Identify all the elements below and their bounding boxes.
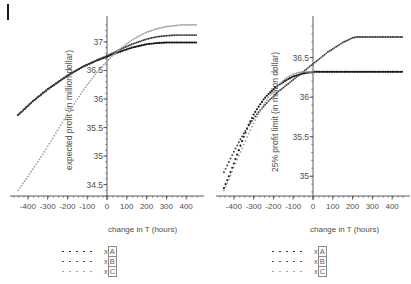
legend-label-c: xC [100, 267, 117, 276]
legend-swatch-light [62, 267, 100, 276]
svg-text:-200: -200 [265, 202, 282, 211]
svg-text:expected profit (in million do: expected profit (in million dollar) [64, 50, 74, 170]
legend-right: xA xB xC [272, 246, 392, 280]
legend-swatch-dark [62, 247, 100, 256]
legend-item[interactable]: xB [62, 256, 182, 266]
svg-text:25% profit limit (in million d: 25% profit limit (in million dollar) [270, 52, 280, 172]
svg-text:-400: -400 [20, 202, 37, 211]
svg-text:-100: -100 [79, 202, 96, 211]
svg-text:36.5: 36.5 [292, 53, 309, 63]
svg-text:-300: -300 [40, 202, 57, 211]
legend-item[interactable]: xC [62, 266, 182, 276]
legend-label-a: xA [310, 247, 327, 256]
chart-panel-expected-profit: -400-300-200-100010020030040034.53535.53… [0, 0, 205, 240]
svg-text:-300: -300 [246, 202, 263, 211]
svg-text:36: 36 [94, 94, 104, 104]
svg-text:400: 400 [385, 202, 399, 211]
svg-text:200: 200 [346, 202, 360, 211]
legend-item[interactable]: xC [272, 266, 392, 276]
legend-item[interactable]: xA [62, 246, 182, 256]
expected-profit-plot: -400-300-200-100010020030040034.53535.53… [0, 0, 205, 240]
profit-limit-plot: -400-300-200-10001002003004003535.53636.… [204, 0, 411, 240]
legend-label-b: xB [100, 257, 117, 266]
x-axis-title-right: change in T (hours) [310, 225, 379, 234]
svg-text:-400: -400 [226, 202, 243, 211]
svg-text:34.5: 34.5 [86, 180, 103, 190]
svg-text:35: 35 [94, 151, 104, 161]
svg-text:0: 0 [311, 202, 316, 211]
legend-item[interactable]: xA [272, 246, 392, 256]
legend-swatch-dark [272, 247, 310, 256]
x-axis-title-left: change in T (hours) [108, 225, 177, 234]
chart-panel-profit-limit: -400-300-200-10001002003004003535.53636.… [204, 0, 409, 240]
svg-text:-200: -200 [59, 202, 76, 211]
svg-text:100: 100 [326, 202, 340, 211]
svg-text:300: 300 [160, 202, 174, 211]
svg-text:35: 35 [300, 171, 310, 181]
legend-label-b: xB [310, 257, 327, 266]
svg-text:300: 300 [366, 202, 380, 211]
svg-text:0: 0 [105, 202, 110, 211]
svg-text:36: 36 [300, 92, 310, 102]
svg-text:200: 200 [140, 202, 154, 211]
svg-text:400: 400 [179, 202, 193, 211]
legend-left: xA xB xC [62, 246, 182, 280]
svg-text:35.5: 35.5 [86, 123, 103, 133]
legend-label-a: xA [100, 247, 117, 256]
legend-swatch-light [272, 267, 310, 276]
svg-text:-100: -100 [285, 202, 302, 211]
legend-swatch-mid [62, 257, 100, 266]
svg-text:100: 100 [120, 202, 134, 211]
svg-text:37: 37 [94, 37, 104, 47]
legend-label-c: xC [310, 267, 327, 276]
svg-text:35.5: 35.5 [292, 132, 309, 142]
figure-canvas: -400-300-200-100010020030040034.53535.53… [0, 0, 411, 284]
legend-swatch-mid [272, 257, 310, 266]
legend-item[interactable]: xB [272, 256, 392, 266]
